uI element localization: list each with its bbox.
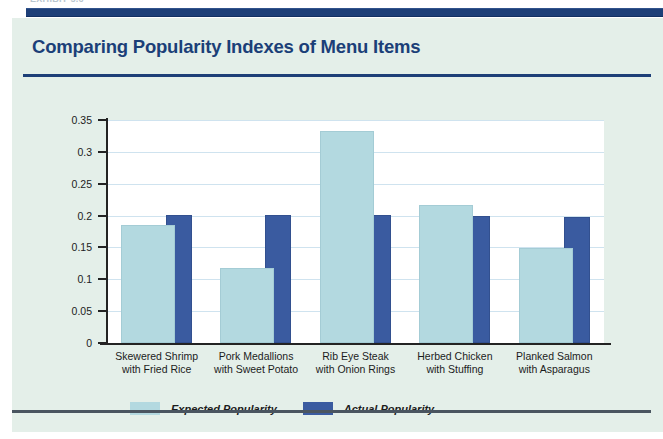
page-root: EXHIBIT 5.6 Comparing Popularity Indexes… [0, 0, 663, 439]
y-axis-tick-label-wrap: 0.2 [22, 210, 92, 222]
y-axis-tick [98, 278, 107, 280]
x-axis-category-line: with Fried Rice [107, 363, 206, 376]
y-axis-tick-label-wrap: 0.25 [22, 178, 92, 190]
legend-swatch-expected-icon [130, 402, 160, 415]
x-axis-category-line: Herbed Chicken [405, 350, 504, 363]
y-axis-tick-label: 0.25 [72, 178, 92, 190]
bar-expected [121, 225, 175, 343]
gridline [107, 120, 604, 121]
bar-expected [519, 248, 573, 343]
x-axis-category-line: with Asparagus [505, 363, 604, 376]
title-divider [23, 74, 651, 77]
x-axis-category-line: Rib Eye Steak [306, 350, 405, 363]
y-axis-tick-label: 0.3 [77, 146, 92, 158]
y-axis-tick-label-wrap: 0.15 [22, 241, 92, 253]
y-axis-tick [98, 342, 107, 344]
x-axis-category-line: with Onion Rings [306, 363, 405, 376]
y-axis-tick-label: 0.05 [72, 305, 92, 317]
y-axis-tick-label-wrap: 0.35 [22, 114, 92, 126]
x-axis-category-label: Pork Medallionswith Sweet Potato [206, 350, 305, 376]
y-axis-tick [98, 215, 107, 217]
x-axis-category-label: Rib Eye Steakwith Onion Rings [306, 350, 405, 376]
y-axis-tick-label-wrap: 0.3 [22, 146, 92, 158]
chart-legend: Expected Popularity Actual Popularity [130, 402, 434, 415]
running-head: EXHIBIT 5.6 [30, 0, 84, 4]
x-axis-category-line: Planked Salmon [505, 350, 604, 363]
y-axis-tick [98, 183, 107, 185]
x-axis-category-line: with Stuffing [405, 363, 504, 376]
bottom-divider [12, 410, 651, 413]
y-axis-tick [98, 246, 107, 248]
legend-item-expected: Expected Popularity [130, 402, 277, 415]
x-axis-category-label: Skewered Shrimpwith Fried Rice [107, 350, 206, 376]
y-axis-tick-label-wrap: 0.05 [22, 305, 92, 317]
y-axis-tick-label: 0.15 [72, 241, 92, 253]
plot-area [107, 120, 604, 343]
y-axis-tick-label: 0 [86, 337, 92, 349]
x-axis-category-line: with Sweet Potato [206, 363, 305, 376]
y-axis-tick [98, 151, 107, 153]
page-title: Comparing Popularity Indexes of Menu Ite… [32, 36, 420, 58]
x-axis-line [100, 343, 611, 345]
x-axis-category-label: Herbed Chickenwith Stuffing [405, 350, 504, 376]
legend-swatch-actual-icon [303, 402, 333, 415]
y-axis-tick [98, 119, 107, 121]
y-axis-tick [98, 310, 107, 312]
x-axis-category-label: Planked Salmonwith Asparagus [505, 350, 604, 376]
bar-expected [320, 131, 374, 343]
y-axis-tick-label: 0.1 [77, 273, 92, 285]
bar-expected [419, 205, 473, 343]
bar-expected [220, 268, 274, 343]
y-axis-tick-label: 0.2 [77, 210, 92, 222]
y-axis-tick-label-wrap: 0 [22, 337, 92, 349]
x-axis-category-line: Skewered Shrimp [107, 350, 206, 363]
y-axis-tick-label: 0.35 [72, 114, 92, 126]
legend-item-actual: Actual Popularity [303, 402, 434, 415]
y-axis-tick-label-wrap: 0.1 [22, 273, 92, 285]
x-axis-category-line: Pork Medallions [206, 350, 305, 363]
bar-chart: 00.050.10.150.20.250.30.35Skewered Shrim… [22, 84, 652, 404]
top-rule [26, 8, 663, 17]
exhibit-panel: Comparing Popularity Indexes of Menu Ite… [12, 18, 663, 432]
